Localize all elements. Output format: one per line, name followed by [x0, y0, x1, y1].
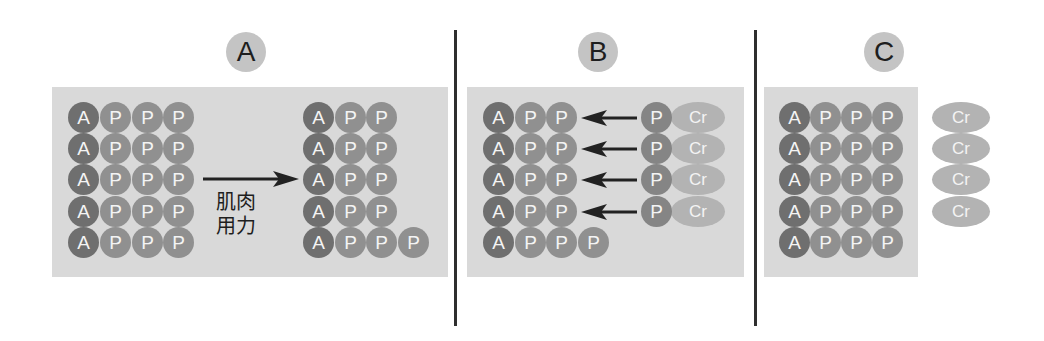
phosphate-molecule: P — [366, 196, 397, 227]
phosphate-molecule: P — [335, 196, 366, 227]
phosphate-molecule: P — [100, 133, 131, 164]
phosphate-molecule: P — [100, 227, 131, 258]
arrow-right-icon — [203, 170, 299, 188]
panel-b-badge: B — [578, 32, 618, 72]
panel-c-badge: C — [864, 32, 904, 72]
caption-line-2: 用力 — [210, 214, 262, 238]
phosphate-molecule: P — [366, 164, 397, 195]
free-creatine-molecule: Cr — [932, 196, 990, 227]
phosphate-molecule: P — [641, 133, 672, 164]
phosphate-molecule: P — [132, 227, 163, 258]
creatine-molecule: Cr — [671, 133, 725, 164]
adenosine-molecule: A — [779, 102, 810, 133]
phosphate-molecule: P — [163, 164, 194, 195]
phosphate-molecule: P — [872, 196, 903, 227]
adenosine-molecule: A — [779, 227, 810, 258]
creatine-molecule: Cr — [671, 164, 725, 195]
phosphate-molecule: P — [132, 133, 163, 164]
phosphate-molecule: P — [810, 133, 841, 164]
phosphate-molecule: P — [163, 102, 194, 133]
adenosine-molecule: A — [68, 133, 99, 164]
phosphate-molecule: P — [872, 133, 903, 164]
phosphate-molecule: P — [810, 227, 841, 258]
phosphate-molecule: P — [366, 227, 397, 258]
arrow-left-icon — [581, 203, 637, 221]
free-creatine-molecule: Cr — [932, 133, 990, 164]
phosphate-molecule: P — [546, 164, 577, 195]
phosphate-molecule: P — [872, 227, 903, 258]
phosphate-molecule: P — [841, 164, 872, 195]
adenosine-molecule: A — [68, 227, 99, 258]
phosphate-molecule: P — [132, 196, 163, 227]
phosphate-molecule: P — [841, 196, 872, 227]
phosphate-molecule: P — [515, 164, 546, 195]
adenosine-molecule: A — [68, 164, 99, 195]
free-creatine-molecule: Cr — [932, 164, 990, 195]
phosphate-molecule: P — [546, 196, 577, 227]
phosphate-molecule: P — [515, 227, 546, 258]
phosphate-molecule: P — [163, 227, 194, 258]
adenosine-molecule: A — [303, 164, 334, 195]
phosphate-molecule: P — [641, 102, 672, 133]
arrow-left-icon — [581, 171, 637, 189]
phosphate-molecule: P — [335, 164, 366, 195]
phosphate-molecule: P — [132, 164, 163, 195]
phosphate-molecule: P — [546, 133, 577, 164]
free-creatine-molecule: Cr — [932, 102, 990, 133]
phosphate-molecule: P — [872, 164, 903, 195]
phosphate-molecule: P — [100, 196, 131, 227]
arrow-left-icon — [581, 109, 637, 127]
adenosine-molecule: A — [303, 102, 334, 133]
creatine-molecule: Cr — [671, 196, 725, 227]
phosphate-molecule: P — [810, 102, 841, 133]
adenosine-molecule: A — [483, 196, 514, 227]
adenosine-molecule: A — [303, 227, 334, 258]
adenosine-molecule: A — [68, 102, 99, 133]
adenosine-molecule: A — [483, 102, 514, 133]
phosphate-molecule: P — [810, 164, 841, 195]
adenosine-molecule: A — [483, 164, 514, 195]
phosphate-molecule: P — [132, 102, 163, 133]
arrow-left-icon — [581, 140, 637, 158]
phosphate-molecule: P — [515, 102, 546, 133]
phosphate-molecule: P — [366, 102, 397, 133]
muscle-exertion-caption: 肌肉 用力 — [210, 190, 262, 238]
adenosine-molecule: A — [779, 133, 810, 164]
caption-line-1: 肌肉 — [210, 190, 262, 214]
adenosine-molecule: A — [483, 227, 514, 258]
phosphate-molecule: P — [810, 196, 841, 227]
divider-ab — [454, 30, 457, 326]
phosphate-molecule: P — [163, 133, 194, 164]
phosphate-molecule: P — [100, 164, 131, 195]
phosphate-molecule: P — [641, 196, 672, 227]
released-phosphate-molecule: P — [398, 227, 429, 258]
phosphate-molecule: P — [841, 102, 872, 133]
panel-a-badge: A — [226, 32, 266, 72]
adenosine-molecule: A — [303, 196, 334, 227]
phosphate-molecule: P — [841, 227, 872, 258]
phosphate-molecule: P — [100, 102, 131, 133]
phosphate-molecule: P — [515, 196, 546, 227]
phosphate-molecule: P — [546, 227, 577, 258]
divider-bc — [754, 30, 757, 326]
phosphate-molecule: P — [641, 164, 672, 195]
creatine-molecule: Cr — [671, 102, 725, 133]
phosphate-molecule: P — [578, 227, 609, 258]
phosphate-molecule: P — [515, 133, 546, 164]
adenosine-molecule: A — [483, 133, 514, 164]
phosphate-molecule: P — [366, 133, 397, 164]
adenosine-molecule: A — [303, 133, 334, 164]
phosphate-molecule: P — [841, 133, 872, 164]
adenosine-molecule: A — [779, 196, 810, 227]
adenosine-molecule: A — [68, 196, 99, 227]
phosphate-molecule: P — [335, 102, 366, 133]
phosphate-molecule: P — [872, 102, 903, 133]
phosphate-molecule: P — [335, 227, 366, 258]
phosphate-molecule: P — [163, 196, 194, 227]
adenosine-molecule: A — [779, 164, 810, 195]
phosphate-molecule: P — [335, 133, 366, 164]
phosphate-molecule: P — [546, 102, 577, 133]
